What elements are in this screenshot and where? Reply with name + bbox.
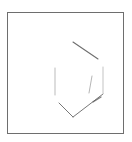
- bond-inner: [89, 76, 92, 93]
- chemical-ring-structure: [0, 0, 132, 142]
- bond-top: [73, 42, 98, 59]
- bond-bottom-right-double: [93, 97, 101, 102]
- bond-bottom-left: [59, 103, 73, 117]
- bond-bottom-right: [73, 94, 103, 117]
- bond-lines: [55, 42, 103, 117]
